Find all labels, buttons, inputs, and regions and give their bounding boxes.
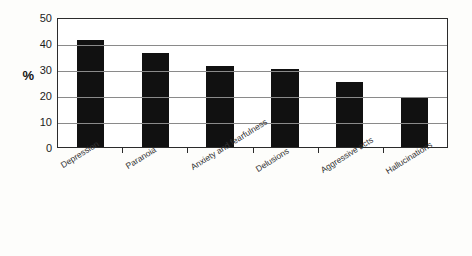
bar[interactable] xyxy=(271,69,298,147)
gridline xyxy=(58,45,447,46)
bar[interactable] xyxy=(336,82,363,147)
x-axis-tick xyxy=(122,148,123,153)
bar-chart: % 01020304050 DepressionParanoiaAnxiety … xyxy=(0,0,472,256)
y-axis-tick-labels: 01020304050 xyxy=(18,18,52,148)
bar-slot xyxy=(58,19,123,147)
y-tick-label: 10 xyxy=(40,117,52,128)
gridline xyxy=(58,71,447,72)
y-tick-label: 30 xyxy=(40,65,52,76)
x-axis-tick xyxy=(318,148,319,153)
bar-slot xyxy=(317,19,382,147)
x-axis-tick xyxy=(187,148,188,153)
bar[interactable] xyxy=(206,66,233,147)
x-axis-tick xyxy=(383,148,384,153)
bar-slot xyxy=(382,19,447,147)
x-axis-tick xyxy=(253,148,254,153)
gridline xyxy=(58,97,447,98)
bar-slot xyxy=(123,19,188,147)
y-tick-label: 40 xyxy=(40,39,52,50)
x-axis-label: Delusions xyxy=(254,145,291,173)
bar[interactable] xyxy=(77,40,104,147)
bar-slot xyxy=(188,19,253,147)
x-axis-label: Paranoia xyxy=(123,145,157,172)
y-tick-label: 50 xyxy=(40,13,52,24)
bar[interactable] xyxy=(142,53,169,147)
y-tick-label: 0 xyxy=(46,143,52,154)
y-tick-label: 20 xyxy=(40,91,52,102)
